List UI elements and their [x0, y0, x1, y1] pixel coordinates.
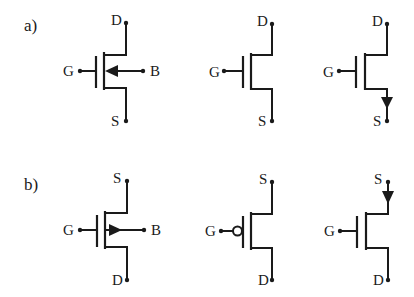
label-bottom: S — [373, 113, 381, 129]
label-gate: G — [205, 223, 216, 239]
label-top: D — [372, 13, 383, 29]
source-arrow-icon — [381, 97, 393, 109]
body-terminal — [141, 69, 145, 73]
label-top: S — [113, 170, 121, 186]
gate-terminal — [338, 229, 342, 233]
drain-terminal — [385, 22, 389, 26]
label-gate: G — [209, 64, 220, 80]
label-top: S — [374, 171, 382, 187]
section-label-a: a) — [24, 16, 37, 35]
label-bottom: S — [258, 113, 266, 129]
section-label-b: b) — [24, 175, 38, 194]
label-gate: G — [63, 222, 74, 238]
label-gate: G — [324, 223, 335, 239]
label-top: D — [257, 13, 268, 29]
drain-terminal — [270, 22, 274, 26]
symbol-a1-nmos-body: G D S B — [63, 12, 160, 129]
source-terminal — [124, 119, 128, 123]
symbol-a2-nmos-simple: G D S — [209, 13, 274, 129]
gate-terminal — [337, 69, 341, 73]
body-terminal — [142, 228, 146, 232]
label-gate: G — [323, 64, 334, 80]
source-terminal — [270, 180, 274, 184]
label-bottom: D — [112, 272, 123, 288]
label-body: B — [151, 222, 161, 238]
body-arrow-icon — [105, 65, 118, 77]
source-terminal — [125, 179, 129, 183]
drain-terminal — [386, 278, 390, 282]
drain-terminal — [124, 21, 128, 25]
label-bottom: D — [373, 272, 384, 288]
drain-terminal — [270, 278, 274, 282]
gate-inversion-bubble-icon — [233, 227, 242, 236]
symbol-b3-pmos-arrow: G S D — [324, 171, 394, 288]
source-arrow-icon — [382, 191, 394, 204]
label-gate: G — [63, 63, 74, 79]
body-arrow-icon — [109, 224, 122, 236]
label-top: D — [111, 12, 122, 28]
mosfet-symbols-diagram: a) G D S B G D S — [0, 0, 414, 297]
label-top: S — [259, 171, 267, 187]
drain-terminal — [125, 278, 129, 282]
label-body: B — [150, 63, 160, 79]
gate-terminal — [78, 69, 82, 73]
symbol-a3-nmos-arrow: G D S — [323, 13, 393, 129]
gate-terminal — [78, 228, 82, 232]
label-bottom: S — [111, 113, 119, 129]
source-terminal — [270, 119, 274, 123]
source-terminal — [385, 119, 389, 123]
gate-terminal — [222, 69, 226, 73]
gate-terminal — [219, 229, 223, 233]
symbol-b1-pmos-body: G S D B — [63, 170, 161, 288]
symbol-b2-pmos-bubble: G S D — [205, 171, 274, 288]
source-terminal — [386, 180, 390, 184]
label-bottom: D — [258, 272, 269, 288]
